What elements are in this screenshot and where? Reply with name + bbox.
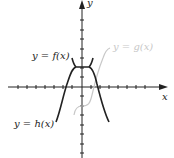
y-axis-label: y xyxy=(86,0,93,8)
function-graph: y = f(x) y = g(x) y = h(x) x y xyxy=(0,0,174,158)
label-f: y = f(x) xyxy=(31,50,70,61)
curve-f-right-horn xyxy=(89,58,93,67)
y-axis-arrow-icon xyxy=(79,0,85,9)
x-axis-arrow-icon xyxy=(159,84,168,90)
axes xyxy=(8,4,163,158)
x-axis-label: x xyxy=(162,91,168,102)
label-h: y = h(x) xyxy=(13,118,54,129)
curve-f-left-horn xyxy=(72,58,76,67)
curve-g xyxy=(74,48,110,115)
label-g: y = g(x) xyxy=(112,41,153,52)
